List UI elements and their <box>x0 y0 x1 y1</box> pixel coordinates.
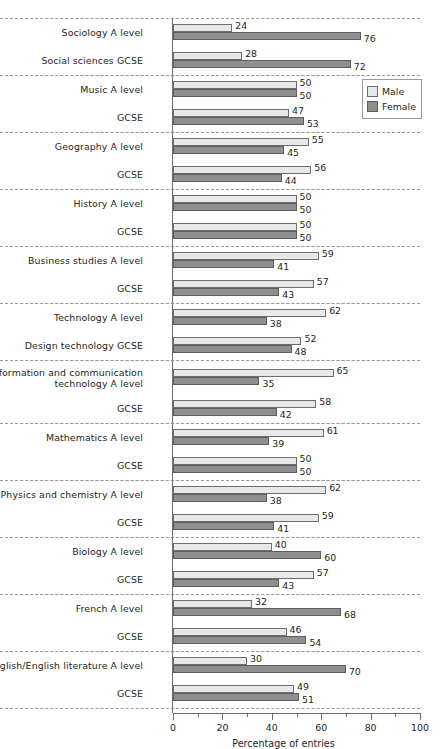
bar-pair: 5743 <box>173 275 443 303</box>
bar-pair: 5050 <box>173 452 443 480</box>
bar-value-female: 35 <box>262 379 274 388</box>
legend-swatch-male-icon <box>367 86 378 97</box>
bar-value-male: 62 <box>329 483 341 492</box>
bar-pair: 4060 <box>173 538 443 566</box>
bar-value-female: 76 <box>364 34 376 43</box>
bar-female <box>173 117 304 125</box>
bar-female <box>173 693 299 701</box>
bar-value-male: 59 <box>322 511 334 520</box>
bar-value-male: 50 <box>300 454 312 463</box>
bar-value-male: 52 <box>304 334 316 343</box>
chart-row: Music A level5050 <box>0 76 420 104</box>
chart-row: GCSE5050 <box>0 218 420 246</box>
chart-group: English/English literature A level3070GC… <box>0 651 420 709</box>
bar-female <box>173 203 297 211</box>
bar-value-female: 41 <box>277 524 289 533</box>
chart-row: GCSE5941 <box>0 509 420 537</box>
bar-pair: 5644 <box>173 161 443 189</box>
category-label: Music A level <box>0 76 143 104</box>
chart-row: GCSE4951 <box>0 680 420 708</box>
bar-female <box>173 551 321 559</box>
bar-value-male: 40 <box>275 540 287 549</box>
bar-male <box>173 543 272 551</box>
legend-item-female: Female <box>367 99 416 114</box>
x-tick <box>173 714 174 720</box>
bar-female <box>173 522 274 530</box>
chart-row: Technology A level6238 <box>0 304 420 332</box>
chart-group: Sociology A level2476Social sciences GCS… <box>0 18 420 76</box>
bar-male <box>173 195 297 203</box>
bar-pair: 5743 <box>173 566 443 594</box>
bar-pair: 6535 <box>173 361 443 395</box>
bar-female <box>173 288 279 296</box>
bar-value-female: 50 <box>300 91 312 100</box>
bar-value-female: 39 <box>272 439 284 448</box>
bar-male <box>173 309 326 317</box>
chart-row: GCSE5050 <box>0 452 420 480</box>
bar-value-male: 28 <box>245 49 257 58</box>
bar-male <box>173 571 314 579</box>
bar-male <box>173 52 242 60</box>
category-label: GCSE <box>0 161 143 189</box>
x-tick-label: 0 <box>170 722 176 733</box>
bar-value-female: 45 <box>287 148 299 157</box>
bar-male <box>173 429 324 437</box>
chart-row: Business studies A level5941 <box>0 247 420 275</box>
chart-row: GCSE4753 <box>0 104 420 132</box>
bar-value-female: 70 <box>349 667 361 676</box>
chart-plot-area: Sociology A level2476Social sciences GCS… <box>0 18 443 709</box>
bar-value-female: 43 <box>282 581 294 590</box>
category-label: GCSE <box>0 509 143 537</box>
bar-value-male: 50 <box>300 220 312 229</box>
bar-value-female: 42 <box>280 410 292 419</box>
category-label: Business studies A level <box>0 247 143 275</box>
bar-value-female: 50 <box>300 205 312 214</box>
bar-male <box>173 628 287 636</box>
bar-value-male: 57 <box>317 277 329 286</box>
legend-item-male: Male <box>367 84 416 99</box>
chart-row: French A level3268 <box>0 595 420 623</box>
bar-male <box>173 486 326 494</box>
chart-row: History A level5050 <box>0 190 420 218</box>
bar-pair: 5941 <box>173 509 443 537</box>
bar-female <box>173 437 269 445</box>
bar-female <box>173 345 292 353</box>
x-tick <box>198 714 199 717</box>
chart-row: Geography A level5545 <box>0 133 420 161</box>
x-tick-label: 40 <box>266 722 278 733</box>
chart-row: GCSE5644 <box>0 161 420 189</box>
chart-row: English/English literature A level3070 <box>0 652 420 680</box>
category-label: Sociology A level <box>0 19 143 47</box>
category-label: GCSE <box>0 623 143 651</box>
legend-label-male: Male <box>382 86 404 97</box>
bar-pair: 2476 <box>173 19 443 47</box>
bar-male <box>173 400 316 408</box>
x-axis-title: Percentage of entries <box>0 738 443 749</box>
chart-group: Biology A level4060GCSE5743 <box>0 537 420 595</box>
bar-female <box>173 665 346 673</box>
bar-value-male: 47 <box>292 106 304 115</box>
bar-female <box>173 317 267 325</box>
bar-female <box>173 231 297 239</box>
bar-value-male: 49 <box>297 682 309 691</box>
bar-male <box>173 369 334 377</box>
bar-pair: 2872 <box>173 47 443 75</box>
bar-female <box>173 60 351 68</box>
chart-group: History A level5050GCSE5050 <box>0 189 420 247</box>
chart-group: Mathematics A level6139GCSE5050 <box>0 423 420 481</box>
chart-group: Information and communication technology… <box>0 360 420 424</box>
chart-row: Social sciences GCSE2872 <box>0 47 420 75</box>
chart-row: GCSE4654 <box>0 623 420 651</box>
bar-value-male: 55 <box>312 135 324 144</box>
bar-value-male: 62 <box>329 306 341 315</box>
bar-pair: 5941 <box>173 247 443 275</box>
category-label: Information and communication technology… <box>0 361 143 395</box>
bar-value-female: 53 <box>307 119 319 128</box>
bar-value-male: 50 <box>300 192 312 201</box>
x-tick <box>420 714 421 720</box>
bar-pair: 3268 <box>173 595 443 623</box>
bar-value-female: 38 <box>270 319 282 328</box>
bar-pair: 4654 <box>173 623 443 651</box>
chart-row: Physics and chemistry A level6238 <box>0 481 420 509</box>
chart-group: Technology A level6238Design technology … <box>0 303 420 361</box>
